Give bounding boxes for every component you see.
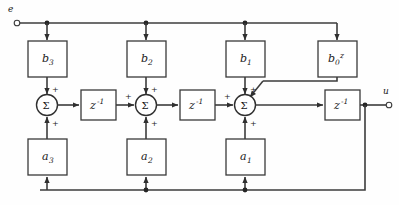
input-terminal <box>14 20 20 26</box>
gain-block-b2[interactable]: b 2 <box>127 41 166 77</box>
gain-block-a3-sub: 3 <box>49 156 54 165</box>
summer-1[interactable]: Σ <box>37 95 58 116</box>
delay-block-1-base: z <box>89 99 96 112</box>
gain-block-b3-base: b <box>42 52 49 65</box>
summer-2-sign-left: + <box>125 92 132 101</box>
gain-block-a2-base: a <box>141 150 148 163</box>
delay-block-2-base: z <box>188 99 195 112</box>
gain-block-b0z[interactable]: b 0 z <box>318 41 357 77</box>
gain-block-a1[interactable]: a 1 <box>226 139 265 175</box>
delay-block-1[interactable]: z -1 <box>81 90 116 120</box>
delay-block-3[interactable]: z -1 <box>325 90 360 120</box>
feedback-junction-a1 <box>243 188 248 193</box>
delay-block-2-sup: -1 <box>196 97 203 106</box>
delay-block-1-sup: -1 <box>97 97 104 106</box>
feedback-junction-a2 <box>144 188 149 193</box>
gain-block-b1[interactable]: b 1 <box>226 41 265 77</box>
gain-block-a2-sub: 2 <box>147 156 153 165</box>
gain-block-a2[interactable]: a 2 <box>127 139 166 175</box>
gain-block-b0z-base: b <box>328 52 335 65</box>
summer-2-sign-top: + <box>151 85 158 94</box>
block-diagram-canvas: e b 3 b 2 b 1 b 0 z <box>0 0 399 205</box>
gain-block-b0z-sup: z <box>339 51 344 60</box>
gain-block-b3[interactable]: b 3 <box>28 41 67 77</box>
gain-block-a1-base: a <box>240 150 247 163</box>
summer-2-glyph: Σ <box>142 100 149 111</box>
input-label: e <box>8 4 13 14</box>
gain-block-b2-base: b <box>141 52 148 65</box>
summer-3-sign-bottom: + <box>250 119 257 128</box>
summer-1-sign-top: + <box>52 85 59 94</box>
summer-2[interactable]: Σ <box>136 95 157 116</box>
gain-block-b3-sub: 3 <box>49 58 54 67</box>
summer-3[interactable]: Σ <box>235 95 256 116</box>
gain-block-b1-base: b <box>240 52 247 65</box>
summer-1-glyph: Σ <box>43 100 50 111</box>
filter-block-diagram: e b 3 b 2 b 1 b 0 z <box>0 0 399 205</box>
output-label: u <box>383 86 389 96</box>
summer-3-glyph: Σ <box>241 100 248 111</box>
delay-block-3-sup: -1 <box>341 97 348 106</box>
summer-2-sign-bottom: + <box>151 119 158 128</box>
output-terminal <box>386 102 392 108</box>
gain-block-b1-sub: 1 <box>247 58 252 67</box>
gain-block-b2-sub: 2 <box>147 58 153 67</box>
gain-block-a3[interactable]: a 3 <box>28 139 67 175</box>
summer-3-sign-left: + <box>224 92 231 101</box>
gain-block-a1-sub: 1 <box>247 156 252 165</box>
gain-block-a3-base: a <box>42 150 49 163</box>
summer-1-sign-bottom: + <box>52 119 59 128</box>
delay-block-2[interactable]: z -1 <box>180 90 215 120</box>
delay-block-3-base: z <box>333 99 340 112</box>
summer-3-sign-top: + <box>250 85 257 94</box>
